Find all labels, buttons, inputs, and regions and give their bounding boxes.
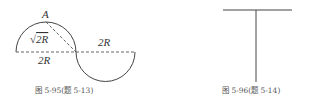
figure-5-96 <box>223 10 292 82</box>
figure-5-95-caption: 图 5-95(题 5-13) <box>35 84 93 95</box>
figure-5-96-caption: 图 5-96(题 5-14) <box>222 84 280 95</box>
lower-diameter-label: 2R <box>38 54 51 66</box>
chord-sqrt-label: √2R <box>30 33 49 45</box>
point-a-label: A <box>41 8 49 20</box>
figure-5-95: A √2R 2R 2R <box>16 8 135 81</box>
lower-semicircle <box>76 52 135 81</box>
upper-diameter-label: 2R <box>98 36 111 48</box>
